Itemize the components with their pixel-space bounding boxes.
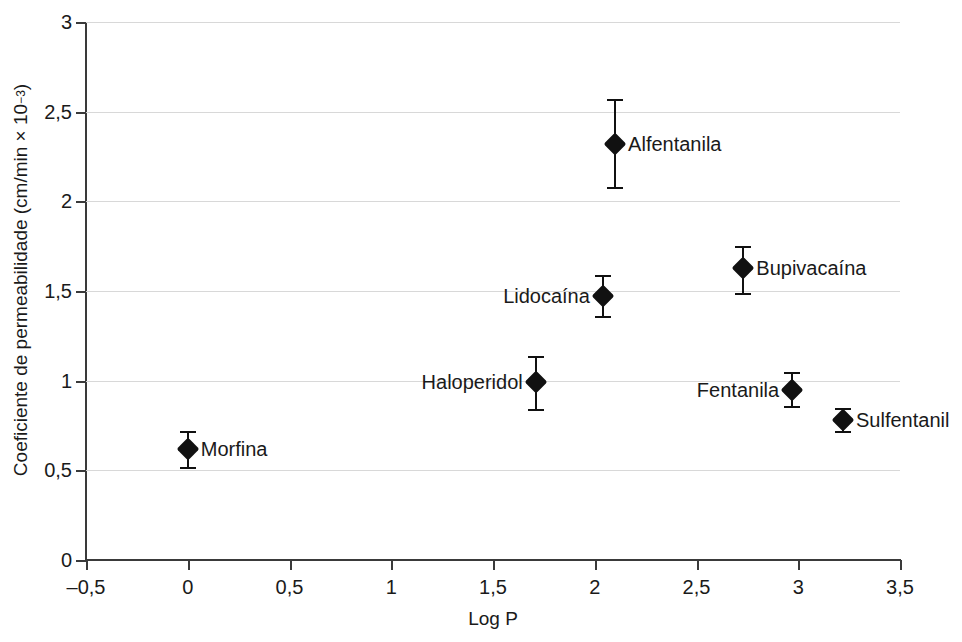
data-point-label: Alfentanila [628,132,721,155]
y-axis-tick-mark [76,470,86,472]
data-point-label: Haloperidol [422,371,523,394]
error-bar-cap-upper [735,246,751,248]
error-bar-cap-lower [735,293,751,295]
x-axis-tick-label: 2 [589,576,600,599]
y-axis-tick-label: 2 [61,190,72,213]
marker-diamond-icon[interactable] [604,133,627,156]
error-bar-cap-upper [784,372,800,374]
y-axis-title-exponent: −3 [14,90,28,104]
error-bar-cap-lower [528,409,544,411]
marker-diamond-icon[interactable] [176,437,199,460]
x-axis-tick-mark [86,560,88,570]
y-axis-title-close: ) [10,84,32,90]
x-axis-tick-label: 1 [386,576,397,599]
marker-diamond-icon[interactable] [592,285,615,308]
x-axis-tick-mark [290,560,292,570]
marker-diamond-icon[interactable] [832,409,855,432]
x-axis-tick-mark [188,560,190,570]
x-axis-tick-label: 0 [182,576,193,599]
gridline [86,291,900,292]
error-bar-cap-upper [607,99,623,101]
data-point-label: Sulfentanil [856,409,949,432]
marker-diamond-icon[interactable] [781,378,804,401]
gridline [86,112,900,113]
x-axis-tick-label: 1,5 [479,576,507,599]
error-bar-cap-upper [180,431,196,433]
y-axis-tick-mark [76,112,86,114]
plot-area: 00,511,522,53 –0,500,511,522,533,5 Morfi… [86,22,900,560]
y-axis-tick-mark [76,22,86,24]
x-axis-tick-mark [900,560,902,570]
error-bar-cap-lower [607,187,623,189]
error-bar-cap-upper [595,275,611,277]
gridline [86,470,900,471]
error-bar-cap-upper [528,356,544,358]
x-axis-tick-mark [595,560,597,570]
x-axis-tick-mark [798,560,800,570]
gridline [86,201,900,202]
y-axis-tick-label: 1 [61,369,72,392]
y-axis-tick-label: 0 [61,549,72,572]
marker-diamond-icon[interactable] [524,371,547,394]
x-axis-tick-mark [391,560,393,570]
y-axis-title: Coeficiente de permeabilidade (cm/min × … [4,0,38,560]
marker-diamond-icon[interactable] [732,256,755,279]
y-axis-tick-mark [76,201,86,203]
y-axis-tick-mark [76,560,86,562]
error-bar-cap-lower [835,431,851,433]
y-axis-tick-label: 0,5 [44,459,72,482]
chart-figure: Coeficiente de permeabilidade (cm/min × … [0,0,962,642]
x-axis-tick-label: 3 [793,576,804,599]
y-axis-tick-label: 3 [61,11,72,34]
y-axis-tick-label: 1,5 [44,280,72,303]
x-axis-tick-label: 0,5 [276,576,304,599]
error-bar-cap-lower [180,467,196,469]
y-axis-tick-label: 2,5 [44,100,72,123]
y-axis-title-main: Coeficiente de permeabilidade (cm/min × … [10,104,32,476]
error-bar-cap-lower [784,406,800,408]
error-bar-cap-lower [595,316,611,318]
data-point-label: Bupivacaína [756,256,866,279]
data-point-label: Morfina [201,437,268,460]
y-axis-tick-mark [76,291,86,293]
data-point-label: Fentanila [697,378,779,401]
gridline [86,22,900,23]
y-axis-tick-mark [76,381,86,383]
data-point-label: Lidocaína [503,285,590,308]
x-axis-tick-label: –0,5 [67,576,106,599]
x-axis-tick-mark [697,560,699,570]
x-axis-tick-mark [493,560,495,570]
x-axis-tick-label: 2,5 [683,576,711,599]
x-axis-tick-label: 3,5 [886,576,914,599]
x-axis-title: Log P [86,608,900,630]
